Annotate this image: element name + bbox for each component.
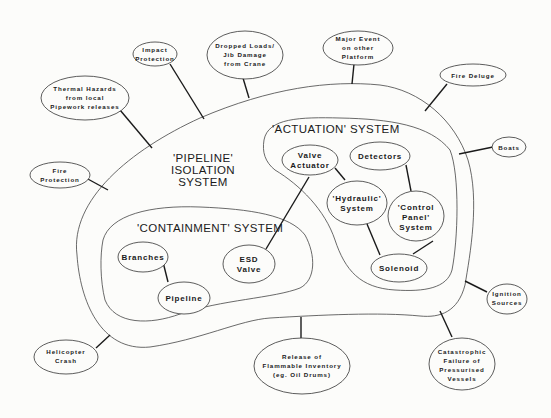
svg-text:Pipeline: Pipeline — [165, 294, 202, 303]
link-detectors-control — [406, 165, 411, 191]
hazard-release-flammable[interactable]: Release of Flammable Inventory (eg. Oil … — [254, 338, 350, 394]
svg-text:on other: on other — [342, 44, 374, 51]
link-thermal — [120, 110, 152, 148]
svg-text:from Crane: from Crane — [224, 60, 266, 67]
svg-text:Valve: Valve — [237, 265, 261, 274]
svg-text:Thermal Hazards: Thermal Hazards — [53, 85, 116, 92]
svg-text:Impact: Impact — [142, 46, 167, 53]
link-actuator-hydraulic — [335, 168, 345, 180]
svg-text:'PIPELINE': 'PIPELINE' — [173, 152, 233, 164]
hazard-ignition-sources[interactable]: Ignition Sources — [487, 284, 527, 314]
svg-text:Boats: Boats — [498, 144, 520, 151]
node-detectors[interactable]: Detectors — [350, 142, 410, 170]
svg-text:Protection: Protection — [135, 55, 175, 62]
svg-text:Actuator: Actuator — [290, 161, 329, 170]
svg-text:Jib Damage: Jib Damage — [223, 51, 267, 58]
svg-text:Dropped Loads/: Dropped Loads/ — [215, 42, 275, 49]
link-solenoid-hydraulic — [367, 224, 380, 255]
svg-text:Fire Deluge: Fire Deluge — [451, 72, 495, 79]
svg-text:Helicopter: Helicopter — [46, 348, 85, 355]
svg-text:Panel': Panel' — [402, 213, 430, 222]
hazard-catastrophic-failure[interactable]: Catastrophic Failure of Pressurised Vess… — [429, 338, 495, 390]
hazard-fire-protection[interactable]: Fire Protection — [30, 162, 90, 188]
link-impact — [170, 64, 204, 119]
node-pipeline[interactable]: Pipeline — [158, 282, 210, 314]
hazard-helicopter-crash[interactable]: Helicopter Crash — [34, 340, 98, 374]
link-fire-deluge — [425, 84, 447, 111]
hazard-thermal-hazards[interactable]: Thermal Hazards from local Pipework rele… — [41, 76, 129, 120]
svg-text:ISOLATION: ISOLATION — [171, 164, 235, 176]
node-esd-valve[interactable]: ESD Valve — [223, 245, 275, 283]
svg-text:Sources: Sources — [492, 299, 523, 306]
svg-text:'Hydraulic': 'Hydraulic' — [332, 194, 381, 203]
svg-text:Branches: Branches — [122, 253, 165, 262]
svg-text:'Control: 'Control — [398, 203, 435, 212]
svg-text:Pressurised: Pressurised — [439, 366, 484, 373]
svg-text:Detectors: Detectors — [358, 152, 402, 161]
link-dropped — [243, 78, 249, 98]
hazard-fire-deluge[interactable]: Fire Deluge — [440, 64, 506, 86]
svg-text:Solenoid: Solenoid — [379, 264, 419, 273]
svg-text:System: System — [399, 223, 432, 232]
svg-text:Protection: Protection — [40, 176, 80, 183]
hazard-dropped-loads[interactable]: Dropped Loads/ Jib Damage from Crane — [207, 31, 283, 79]
svg-text:Flammable Inventory: Flammable Inventory — [263, 362, 342, 369]
link-fire-protection — [86, 178, 108, 190]
svg-text:Valve: Valve — [298, 151, 322, 160]
svg-text:Vessels: Vessels — [447, 375, 476, 382]
svg-text:Ignition: Ignition — [492, 290, 522, 297]
node-control-panel-system[interactable]: 'Control Panel' System — [388, 191, 444, 241]
link-major — [352, 64, 354, 84]
link-ignition — [465, 281, 487, 292]
svg-text:Crash: Crash — [55, 357, 77, 364]
link-catastrophic — [440, 311, 452, 337]
link-control-solenoid — [413, 241, 433, 254]
svg-text:Fire: Fire — [53, 167, 68, 174]
svg-text:Major Event: Major Event — [336, 35, 381, 42]
link-helicopter — [96, 335, 110, 348]
link-actuator-esd — [266, 177, 309, 249]
svg-text:ESD: ESD — [240, 255, 259, 264]
pipeline-isolation-label: 'PIPELINE' ISOLATION SYSTEM — [171, 152, 235, 188]
svg-text:Release of: Release of — [282, 353, 322, 360]
svg-text:System: System — [340, 204, 373, 213]
svg-text:Pipework releases: Pipework releases — [50, 103, 119, 110]
hazard-boats[interactable]: Boats — [492, 137, 526, 157]
node-solenoid[interactable]: Solenoid — [371, 254, 427, 282]
actuation-system-label: 'ACTUATION' SYSTEM — [272, 123, 400, 135]
node-valve-actuator[interactable]: Valve Actuator — [282, 145, 338, 175]
hazard-major-event[interactable]: Major Event on other Platform — [323, 31, 393, 65]
pipeline-isolation-diagram: 'PIPELINE' ISOLATION SYSTEM 'ACTUATION' … — [0, 0, 551, 418]
svg-text:(eg. Oil Drums): (eg. Oil Drums) — [273, 371, 331, 378]
containment-system-label: 'CONTAINMENT' SYSTEM — [137, 222, 283, 234]
svg-text:Catastrophic: Catastrophic — [438, 348, 487, 355]
svg-text:Failure of: Failure of — [444, 357, 481, 364]
svg-text:SYSTEM: SYSTEM — [178, 176, 228, 188]
hazard-impact-protection[interactable]: Impact Protection — [133, 42, 177, 66]
node-branches[interactable]: Branches — [118, 242, 168, 272]
svg-text:from local: from local — [66, 94, 105, 101]
node-hydraulic-system[interactable]: 'Hydraulic' System — [327, 181, 387, 225]
svg-text:Platform: Platform — [342, 53, 374, 60]
